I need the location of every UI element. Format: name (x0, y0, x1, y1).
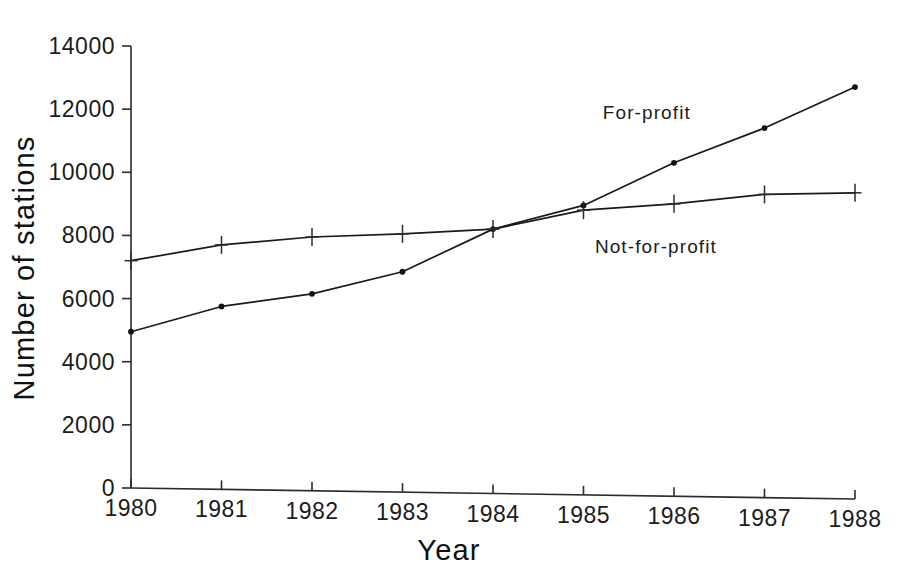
x-axis-title: Year (417, 534, 480, 566)
y-tick-label: 12000 (49, 96, 115, 122)
data-point-marker (396, 225, 409, 243)
data-point-marker (849, 184, 862, 202)
data-point-marker (671, 160, 677, 166)
y-tick-label: 6000 (62, 286, 115, 312)
series-for-profit (128, 84, 858, 334)
x-tick-label: 1988 (828, 506, 881, 532)
chart-figure: 0200040006000800010000120001400019801981… (0, 0, 898, 572)
data-point-marker (400, 269, 406, 275)
data-point-marker (487, 220, 500, 238)
y-axis-title: Number of stations (8, 136, 40, 401)
data-point-marker (125, 252, 138, 270)
data-point-marker (668, 195, 681, 213)
data-point-marker (306, 228, 319, 246)
series-not-for-profit (125, 184, 862, 270)
y-axis: 02000400060008000100001200014000 (49, 33, 131, 501)
line-chart: 0200040006000800010000120001400019801981… (0, 0, 898, 572)
y-tick-label: 14000 (49, 33, 115, 59)
data-point-marker (219, 304, 225, 310)
x-axis: 198019811982198319841985198619871988 (104, 479, 881, 532)
x-tick-label: 1983 (376, 499, 429, 525)
data-point-marker (215, 236, 228, 254)
y-tick-label: 10000 (49, 159, 115, 185)
x-tick-label: 1986 (647, 503, 700, 529)
x-tick-label: 1982 (285, 498, 338, 524)
series-line-0 (131, 87, 855, 332)
y-tick-label: 8000 (62, 222, 115, 248)
data-point-marker (309, 291, 315, 297)
x-tick-label: 1981 (195, 496, 248, 522)
data-point-marker (758, 185, 771, 203)
y-tick-label: 2000 (62, 412, 115, 438)
series-annotation-for-profit: For-profit (603, 102, 691, 123)
x-tick-label: 1987 (738, 505, 791, 531)
data-point-marker (852, 84, 858, 90)
series-annotation-not-for-profit: Not-for-profit (595, 236, 717, 257)
y-tick-label: 4000 (62, 349, 115, 375)
x-tick-label: 1985 (557, 502, 610, 528)
data-point-marker (128, 329, 134, 335)
x-tick-label: 1984 (466, 501, 519, 527)
x-tick-label: 1980 (104, 495, 157, 521)
data-point-marker (762, 125, 768, 131)
